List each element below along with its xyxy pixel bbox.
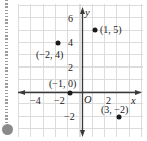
point-label-neg1-0: (−1, 0): [49, 78, 76, 89]
x-axis-name: x: [131, 95, 136, 106]
x-tick-label-neg4: −4: [30, 95, 41, 106]
origin-label: O: [84, 94, 92, 105]
y-tick-label-2: 2: [68, 62, 73, 73]
x-tick-label-neg2: −2: [54, 95, 65, 106]
point-dot-3-neg2[interactable]: [117, 115, 122, 120]
x-axis-arrow-right-icon: [135, 90, 142, 95]
point-dot-1-5[interactable]: [93, 28, 98, 33]
x-axis-arrow-left-icon: [19, 90, 26, 95]
point-dot-neg1-0[interactable]: [68, 90, 73, 95]
coordinate-plane-figure: 6 4 2 −2 −4 −2 2 y x O (1, 5) (−2, 4) (−…: [0, 0, 147, 141]
axis-lines: [18, 4, 143, 137]
margin-bullet-icon: [2, 124, 13, 135]
point-dot-neg2-4[interactable]: [56, 41, 61, 46]
y-tick-label-neg2: −2: [64, 111, 75, 122]
plot-area: 6 4 2 −2 −4 −2 2 y x O (1, 5) (−2, 4) (−…: [18, 4, 143, 137]
y-axis-arrow-down-icon: [80, 130, 85, 137]
y-tick-label-4: 4: [68, 37, 73, 48]
y-tick-label-6: 6: [68, 13, 73, 24]
point-label-neg2-4: (−2, 4): [36, 49, 63, 60]
point-label-1-5: (1, 5): [100, 24, 122, 35]
y-axis-name: y: [85, 7, 90, 18]
point-label-3-neg2: (3, −2): [101, 104, 128, 115]
margin-dotted-rule: [5, 0, 8, 126]
